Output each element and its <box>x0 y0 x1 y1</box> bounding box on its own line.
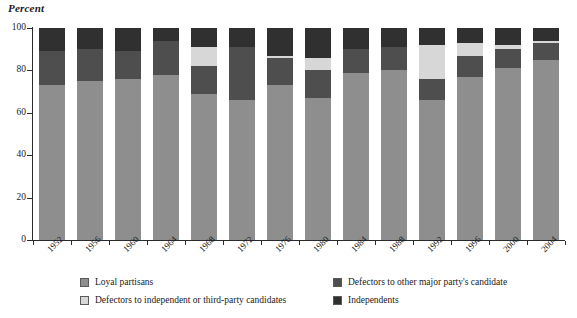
segment-independents[interactable] <box>39 28 65 51</box>
stacked-bar[interactable] <box>229 28 255 240</box>
x-axis-tick-mark <box>451 241 452 245</box>
segment-independents[interactable] <box>115 28 141 51</box>
segment-defectors-major-party[interactable] <box>191 66 217 94</box>
segment-independents[interactable] <box>305 28 331 58</box>
segment-loyal-partisans[interactable] <box>77 81 103 240</box>
stacked-bar[interactable] <box>39 28 65 240</box>
bar-slot <box>223 28 261 240</box>
legend-label: Defectors to other major party's candida… <box>348 278 507 288</box>
segment-loyal-partisans[interactable] <box>343 73 369 240</box>
segment-defectors-major-party[interactable] <box>305 70 331 98</box>
x-axis-tick-mark <box>223 241 224 245</box>
segment-independents[interactable] <box>343 28 369 49</box>
bar-slot <box>413 28 451 240</box>
legend-item-indep[interactable]: Independents <box>333 296 399 306</box>
segment-loyal-partisans[interactable] <box>267 85 293 240</box>
legend-item-major[interactable]: Defectors to other major party's candida… <box>333 278 507 288</box>
segment-defectors-major-party[interactable] <box>343 49 369 72</box>
segment-loyal-partisans[interactable] <box>153 75 179 240</box>
y-axis-tick-label: 100 <box>0 22 26 32</box>
y-axis-title: Percent <box>8 2 44 14</box>
segment-defectors-major-party[interactable] <box>229 47 255 100</box>
segment-defectors-major-party[interactable] <box>115 51 141 79</box>
stacked-bar[interactable] <box>457 28 483 240</box>
stacked-bar[interactable] <box>191 28 217 240</box>
segment-independents[interactable] <box>267 28 293 56</box>
bar-slot <box>527 28 565 240</box>
y-axis-tick-mark <box>27 155 32 156</box>
segment-loyal-partisans[interactable] <box>457 77 483 240</box>
bar-slot <box>451 28 489 240</box>
stacked-bar[interactable] <box>495 28 521 240</box>
x-axis-tick-mark <box>565 241 566 245</box>
stacked-bar[interactable] <box>533 28 559 240</box>
stacked-bar[interactable] <box>419 28 445 240</box>
legend-swatch-icon <box>80 278 89 287</box>
segment-independents[interactable] <box>457 28 483 43</box>
segment-defectors-major-party[interactable] <box>457 56 483 77</box>
legend-label: Loyal partisans <box>95 278 153 288</box>
stacked-bar[interactable] <box>153 28 179 240</box>
legend-swatch-icon <box>333 296 342 305</box>
segment-independents[interactable] <box>533 28 559 41</box>
y-axis-tick-mark <box>27 70 32 71</box>
stacked-bar[interactable] <box>77 28 103 240</box>
x-axis-tick-mark <box>375 241 376 245</box>
y-axis-tick-label: 40 <box>0 149 26 159</box>
segment-loyal-partisans[interactable] <box>419 100 445 240</box>
segment-defectors-third-party[interactable] <box>419 45 445 79</box>
segment-defectors-major-party[interactable] <box>419 79 445 100</box>
segment-loyal-partisans[interactable] <box>191 94 217 240</box>
segment-independents[interactable] <box>77 28 103 49</box>
segment-loyal-partisans[interactable] <box>229 100 255 240</box>
segment-loyal-partisans[interactable] <box>533 60 559 240</box>
segment-independents[interactable] <box>419 28 445 45</box>
segment-loyal-partisans[interactable] <box>381 70 407 240</box>
bar-group <box>33 28 565 240</box>
legend-label: Defectors to independent or third-party … <box>95 296 286 306</box>
stacked-bar[interactable] <box>305 28 331 240</box>
legend-swatch-icon <box>333 278 342 287</box>
segment-defectors-major-party[interactable] <box>39 51 65 85</box>
x-axis-tick-mark <box>527 241 528 245</box>
segment-defectors-third-party[interactable] <box>305 58 331 71</box>
segment-defectors-major-party[interactable] <box>267 58 293 86</box>
segment-defectors-major-party[interactable] <box>495 49 521 68</box>
segment-independents[interactable] <box>229 28 255 47</box>
segment-independents[interactable] <box>495 28 521 45</box>
bar-slot <box>375 28 413 240</box>
segment-independents[interactable] <box>153 28 179 41</box>
x-axis-tick-mark <box>337 241 338 245</box>
chart-legend: Loyal partisansDefectors to other major … <box>0 276 577 316</box>
x-axis-tick-mark <box>33 241 34 245</box>
segment-independents[interactable] <box>381 28 407 47</box>
y-axis-tick-mark <box>27 28 32 29</box>
y-axis-tick-label: 80 <box>0 64 26 74</box>
segment-loyal-partisans[interactable] <box>39 85 65 240</box>
legend-item-loyal[interactable]: Loyal partisans <box>80 278 153 288</box>
stacked-bar[interactable] <box>267 28 293 240</box>
bar-slot <box>185 28 223 240</box>
segment-defectors-major-party[interactable] <box>381 47 407 70</box>
legend-label: Independents <box>348 296 399 306</box>
segment-loyal-partisans[interactable] <box>115 79 141 240</box>
segment-independents[interactable] <box>191 28 217 47</box>
bar-slot <box>33 28 71 240</box>
segment-defectors-third-party[interactable] <box>191 47 217 66</box>
legend-item-third[interactable]: Defectors to independent or third-party … <box>80 296 286 306</box>
y-axis-tick-mark <box>27 113 32 114</box>
bar-slot <box>261 28 299 240</box>
bar-slot <box>299 28 337 240</box>
x-axis-tick-mark <box>489 241 490 245</box>
segment-loyal-partisans[interactable] <box>495 68 521 240</box>
segment-defectors-major-party[interactable] <box>533 43 559 60</box>
stacked-bar[interactable] <box>115 28 141 240</box>
stacked-bar[interactable] <box>343 28 369 240</box>
stacked-bar[interactable] <box>381 28 407 240</box>
segment-loyal-partisans[interactable] <box>305 98 331 240</box>
bar-slot <box>109 28 147 240</box>
x-axis-tick-mark <box>185 241 186 245</box>
segment-defectors-third-party[interactable] <box>457 43 483 56</box>
segment-defectors-major-party[interactable] <box>77 49 103 81</box>
segment-defectors-major-party[interactable] <box>153 41 179 75</box>
